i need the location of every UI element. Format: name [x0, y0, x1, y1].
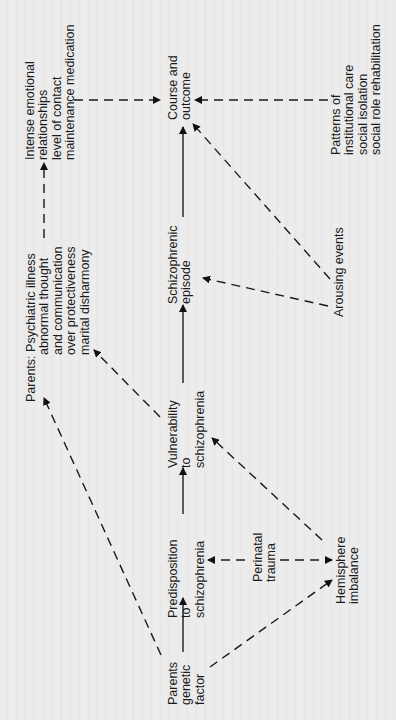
node-line: imbalance: [348, 537, 361, 604]
node-line: factor: [194, 662, 207, 705]
node-line: and communication: [52, 247, 65, 402]
node-patterns-of-care: Patterns of institutional care social is…: [330, 24, 384, 155]
node-parents-genetic-factor: Parents genetic factor: [167, 662, 207, 705]
node-line-first: Parents: Psychiatric illness: [25, 247, 38, 402]
edge-genetic-to-parents-illness: [44, 398, 161, 655]
node-parents-psychiatric-illness: Parents: Psychiatric illness abnormal th…: [25, 247, 92, 402]
node-line: Course and: [167, 55, 180, 120]
node-line: to: [180, 391, 193, 468]
node-line: social isolation: [357, 24, 370, 155]
node-intense-emotional-relationships: Intense emotional relationships level of…: [24, 25, 78, 161]
node-prefix: Parents:: [24, 355, 38, 402]
node-line: Arousing events: [333, 227, 346, 317]
node-line: Parents: [167, 662, 180, 705]
node-vulnerability: Vulnerability to schizophrenia: [167, 391, 207, 468]
node-line: Hemisphere: [335, 537, 348, 604]
node-line: relationships: [37, 25, 50, 161]
node-line: Psychiatric illness: [24, 253, 38, 352]
node-hemisphere-imbalance: Hemisphere imbalance: [335, 537, 362, 604]
node-line: to: [180, 539, 193, 618]
edge-genetic-to-hemisphere: [210, 580, 332, 667]
node-line: genetic: [180, 662, 193, 705]
node-line: Intense emotional: [24, 25, 37, 161]
node-line: marital disharmony: [79, 247, 92, 402]
node-line: Schizophrenic: [167, 225, 180, 304]
edge-arousing-to-episode: [203, 278, 328, 306]
node-line: Patterns of: [330, 24, 343, 155]
diagram-page: Course and outcome Intense emotional rel…: [0, 0, 396, 720]
node-line: schizophrenia: [194, 539, 207, 618]
node-course-and-outcome: Course and outcome: [167, 55, 194, 120]
node-line: institutional care: [343, 24, 356, 155]
node-line: schizophrenia: [194, 391, 207, 468]
node-arousing-events: Arousing events: [333, 227, 346, 317]
node-line: Perinatal: [252, 533, 265, 582]
node-line: trauma: [265, 533, 278, 582]
node-line: over protectiveness: [65, 247, 78, 402]
node-line: level of contact: [51, 25, 64, 161]
node-line: Predisposition: [167, 539, 180, 618]
node-line: outcome: [180, 55, 193, 120]
node-line: Vulnerability: [167, 391, 180, 468]
node-line: episode: [180, 225, 193, 304]
edge-vulnerability-to-parents-illness: [94, 350, 160, 417]
edge-arousing-to-outcome: [193, 124, 330, 279]
node-predisposition: Predisposition to schizophrenia: [167, 539, 207, 618]
node-line: maintenance medication: [64, 25, 77, 161]
node-line: social role rehabilitation: [370, 24, 383, 155]
node-schizophrenic-episode: Schizophrenic episode: [167, 225, 194, 304]
edge-hemisphere-to-vulnerability: [212, 438, 322, 540]
node-perinatal-trauma: Perinatal trauma: [252, 533, 279, 582]
node-line: abnormal thought: [38, 247, 51, 402]
